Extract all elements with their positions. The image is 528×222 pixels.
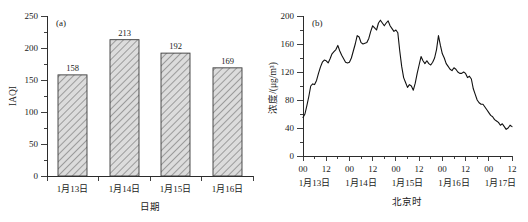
chart-panel-b-line: 0 40 80 120 160 200 浓度/(μg/m³) (b) 00 12… [264, 0, 528, 222]
xtick-label-a: 1月15日 [160, 184, 192, 194]
xday-label: 1月13日 [299, 178, 331, 188]
bar-series [58, 40, 242, 176]
bar-item [110, 40, 139, 176]
line-chart-svg: 0 40 80 120 160 200 浓度/(μg/m³) (b) 00 12… [264, 0, 528, 222]
bar-value-label: 192 [169, 41, 182, 51]
figure-container: 0 50 100 150 200 250 IAQI (a) 158 213 19… [0, 0, 528, 222]
line-chart-ytick-labels: 0 40 80 120 160 200 [281, 11, 295, 161]
ytick-label-a: 100 [25, 107, 39, 117]
ytick-label-b: 160 [281, 39, 295, 49]
ytick-label-b: 80 [285, 95, 295, 105]
ytick-label-a: 200 [25, 43, 39, 53]
xday-label: 1月15日 [392, 178, 424, 188]
concentration-series-line [303, 20, 512, 129]
y-axis-title-b: 浓度/(μg/m³) [267, 62, 279, 114]
xtick-label-b: 00 [345, 164, 355, 174]
xtick-label-b: 12 [415, 164, 424, 174]
x-axis-title-a: 日期 [140, 202, 160, 212]
xtick-label-a: 1月16日 [212, 184, 244, 194]
bar-item [213, 68, 242, 176]
ytick-label-a: 150 [25, 75, 39, 85]
bar-value-label: 169 [221, 56, 234, 66]
x-axis-title-b: 北京时 [392, 196, 422, 207]
bar-chart-svg: 0 50 100 150 200 250 IAQI (a) 158 213 19… [0, 0, 264, 222]
ytick-label-a: 50 [29, 139, 39, 149]
xtick-label-b: 12 [368, 164, 377, 174]
line-chart-xtick-labels: 00 12 00 12 00 12 00 12 00 12 [299, 164, 517, 174]
chart-panel-a-bar: 0 50 100 150 200 250 IAQI (a) 158 213 19… [0, 0, 264, 222]
xtick-label-b: 12 [322, 164, 331, 174]
panel-label-b: (b) [312, 18, 323, 28]
xtick-label-b: 12 [508, 164, 517, 174]
ytick-label-a: 250 [25, 11, 39, 21]
xtick-label-b: 00 [299, 164, 309, 174]
bar-chart-ytick-labels: 0 50 100 150 200 250 [25, 11, 39, 181]
bar-value-label: 158 [66, 63, 79, 73]
bar-chart-xtick-labels: 1月13日 1月14日 1月15日 1月16日 [57, 184, 244, 194]
xtick-label-a: 1月14日 [109, 184, 141, 194]
xday-label: 1月17日 [485, 178, 517, 188]
ytick-label-b: 200 [281, 11, 295, 21]
xtick-label-b: 00 [438, 164, 448, 174]
bar-item [58, 75, 87, 176]
xtick-label-a: 1月13日 [57, 184, 89, 194]
bar-item [161, 53, 190, 176]
xday-label: 1月16日 [438, 178, 470, 188]
ytick-label-b: 0 [290, 151, 295, 161]
bar-value-label: 213 [118, 28, 131, 38]
xtick-label-b: 00 [391, 164, 401, 174]
ytick-label-b: 120 [281, 67, 295, 77]
line-chart-xday-labels: 1月13日 1月14日 1月15日 1月16日 1月17日 [299, 178, 516, 188]
xtick-label-b: 00 [484, 164, 494, 174]
panel-label-a: (a) [56, 18, 66, 28]
xtick-label-b: 12 [461, 164, 470, 174]
xday-label: 1月14日 [345, 178, 377, 188]
y-axis-title-a: IAQI [8, 86, 18, 106]
ytick-label-b: 40 [285, 123, 295, 133]
line-chart-axes [297, 16, 512, 161]
bar-value-labels: 158 213 192 169 [66, 28, 234, 73]
ytick-label-a: 0 [34, 171, 39, 181]
